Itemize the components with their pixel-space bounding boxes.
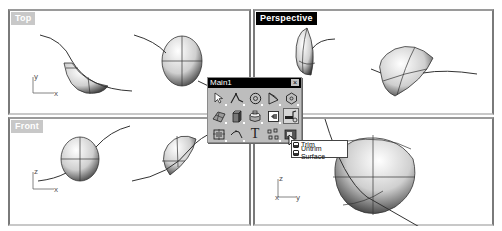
axis-y-label: y	[296, 193, 300, 202]
circle-icon	[249, 92, 262, 105]
mesh-button[interactable]	[265, 108, 281, 124]
select-arrow-icon	[213, 92, 225, 104]
points-button[interactable]	[265, 126, 281, 142]
surface-patch-icon	[212, 110, 226, 123]
grid-snap-icon	[212, 128, 226, 141]
circle-button[interactable]	[247, 90, 263, 106]
close-button[interactable]: ×	[291, 79, 299, 86]
surface-button[interactable]	[211, 108, 227, 124]
flyout-item-untrim-surface[interactable]: Untrim Surface	[292, 149, 347, 157]
fillet-curve-icon	[230, 128, 244, 141]
text-button[interactable]: T	[247, 126, 263, 142]
untrim-surface-icon	[293, 150, 299, 156]
polyline-button[interactable]	[229, 90, 245, 106]
curve-icon	[267, 92, 280, 105]
toolbar-title: Main1	[210, 78, 232, 87]
polyline-icon	[230, 92, 244, 104]
axis-z-label: z	[34, 167, 38, 176]
text-icon: T	[251, 127, 260, 141]
points-icon	[266, 128, 280, 141]
polygon-button[interactable]	[283, 90, 299, 106]
axis-z-label: z	[279, 174, 283, 183]
flyout-item-label: Untrim Surface	[301, 145, 347, 161]
grid-snap-button[interactable]	[211, 126, 227, 142]
axis-x-label: x	[54, 89, 58, 98]
mesh-icon	[267, 110, 280, 123]
curve-button[interactable]	[265, 90, 281, 106]
axis-x-label: x	[54, 185, 58, 194]
trim-flyout-menu: Trim Untrim Surface	[291, 140, 348, 158]
axis-y-label: y	[34, 72, 38, 81]
axis-x-label: x	[275, 193, 279, 202]
cylinder-icon	[248, 110, 262, 123]
trim-icon	[293, 142, 299, 148]
solid-box-button[interactable]	[229, 108, 245, 124]
fillet-button[interactable]	[229, 126, 245, 142]
trim-icon	[284, 110, 298, 123]
polygon-icon	[285, 92, 298, 105]
cylinder-button[interactable]	[247, 108, 263, 124]
trim-button[interactable]	[283, 108, 299, 124]
toolbar-title-bar[interactable]: Main1 ×	[208, 78, 301, 88]
select-button[interactable]	[211, 90, 227, 106]
box-solid-icon	[231, 110, 243, 123]
